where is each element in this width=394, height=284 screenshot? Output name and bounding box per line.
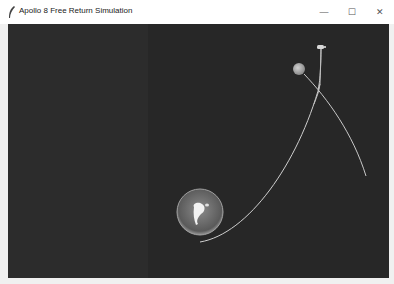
simulation-canvas[interactable]: [8, 24, 389, 278]
window-frame-left: [0, 24, 8, 278]
minimize-icon: —: [320, 7, 329, 17]
feather-icon: [8, 6, 16, 18]
simulation-scene: [8, 24, 389, 278]
moon: [293, 63, 305, 75]
close-button[interactable]: ✕: [366, 0, 394, 24]
earth: [177, 189, 223, 235]
close-icon: ✕: [376, 7, 384, 17]
maximize-icon: ☐: [348, 7, 356, 17]
window-frame-bottom: [0, 278, 394, 284]
title-bar: Apollo 8 Free Return Simulation — ☐ ✕: [0, 0, 394, 24]
window-frame-right: [389, 24, 394, 284]
window-title: Apollo 8 Free Return Simulation: [19, 6, 132, 15]
maximize-button[interactable]: ☐: [338, 0, 366, 24]
minimize-button[interactable]: —: [310, 0, 338, 24]
